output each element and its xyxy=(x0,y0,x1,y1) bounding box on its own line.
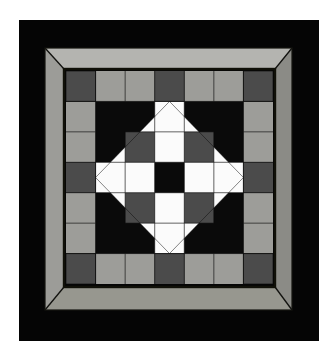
quilt-block xyxy=(66,71,273,284)
diamond-point-square-1 xyxy=(96,162,126,192)
accent-square-3 xyxy=(184,193,214,223)
center-square xyxy=(155,162,185,192)
diamond-point-square-3 xyxy=(155,223,185,253)
quilt-block-canvas xyxy=(66,71,273,284)
frame-rail-bottom xyxy=(45,287,292,310)
edge-midpoint-square-3 xyxy=(155,254,185,284)
frame-rail-right xyxy=(275,48,292,310)
artwork-scene xyxy=(0,0,333,353)
edge-midpoint-square-2 xyxy=(243,162,273,192)
accent-square-0 xyxy=(125,132,155,162)
accent-square-2 xyxy=(125,193,155,223)
diamond-point-square-0 xyxy=(155,101,185,131)
corner-square-3 xyxy=(243,254,273,284)
diamond-point-square-2 xyxy=(214,162,244,192)
corner-square-1 xyxy=(243,71,273,101)
corner-square-2 xyxy=(66,254,96,284)
edge-midpoint-square-1 xyxy=(66,162,96,192)
corner-square-0 xyxy=(66,71,96,101)
frame-rail-left xyxy=(45,48,64,310)
frame-rail-top xyxy=(45,48,292,69)
edge-midpoint-square-0 xyxy=(155,71,185,101)
accent-square-1 xyxy=(184,132,214,162)
